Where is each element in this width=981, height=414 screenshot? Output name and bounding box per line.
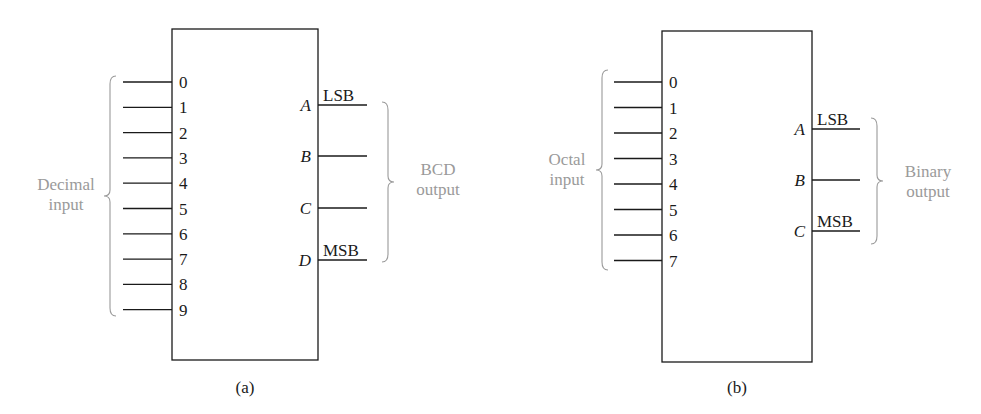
input-pin-label: 0 <box>669 73 678 92</box>
input-pin-label: 5 <box>669 201 678 220</box>
bit-significance-label: MSB <box>323 241 359 260</box>
output-brace <box>871 118 883 244</box>
input-pin-label: 4 <box>179 174 188 193</box>
input-brace <box>104 76 116 316</box>
input-pin-label: 1 <box>669 99 678 118</box>
input-pin-label: 7 <box>179 250 188 269</box>
bit-significance-label: LSB <box>817 110 848 129</box>
input-pin-label: 8 <box>179 275 188 294</box>
input-brace <box>596 70 608 270</box>
output-group-label: Binary <box>905 162 952 181</box>
output-pin-label: A <box>794 120 806 139</box>
input-group-label: Octal <box>549 150 586 169</box>
output-pin-label: A <box>300 96 312 115</box>
encoder-b: 01234567OctalinputALSBBCMSBBinaryoutput(… <box>549 31 952 397</box>
input-pin-label: 6 <box>179 225 188 244</box>
input-pin-label: 1 <box>179 98 188 117</box>
input-pin-label: 6 <box>669 226 678 245</box>
output-pin-label: C <box>794 222 806 241</box>
input-group-label: input <box>550 170 585 189</box>
input-pin-label: 2 <box>179 124 188 143</box>
output-pin-label: C <box>300 199 312 218</box>
output-pin-label: B <box>301 147 312 166</box>
input-pin-label: 9 <box>179 301 188 320</box>
output-pin-label: D <box>298 251 312 270</box>
input-pin-label: 4 <box>669 175 678 194</box>
figure-caption: (a) <box>236 378 255 397</box>
output-group-label: BCD <box>421 160 456 179</box>
input-pin-label: 5 <box>179 200 188 219</box>
bit-significance-label: MSB <box>817 212 853 231</box>
encoder-block <box>662 31 812 362</box>
input-group-label: Decimal <box>37 175 95 194</box>
encoder-diagrams: 0123456789DecimalinputALSBBCDMSBBCDoutpu… <box>0 0 981 414</box>
figure-caption: (b) <box>727 378 747 397</box>
bit-significance-label: LSB <box>323 86 354 105</box>
output-brace <box>382 102 394 262</box>
input-pin-label: 0 <box>179 73 188 92</box>
output-group-label: output <box>906 182 950 201</box>
encoder-block <box>172 29 318 360</box>
input-pin-label: 7 <box>669 252 678 271</box>
input-pin-label: 3 <box>179 149 188 168</box>
input-group-label: input <box>49 195 84 214</box>
output-group-label: output <box>416 180 460 199</box>
output-pin-label: B <box>795 171 806 190</box>
input-pin-label: 3 <box>669 150 678 169</box>
encoder-a: 0123456789DecimalinputALSBBCDMSBBCDoutpu… <box>37 29 460 397</box>
input-pin-label: 2 <box>669 124 678 143</box>
